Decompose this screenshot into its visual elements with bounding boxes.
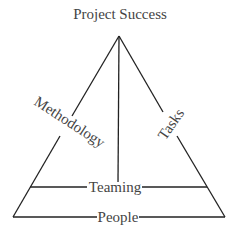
- methodology-label: Methodology: [31, 93, 108, 151]
- success-triangle-diagram: Project Success Teaming People Methodolo…: [0, 0, 239, 232]
- teaming-label: Teaming: [89, 179, 142, 195]
- tasks-label: Tasks: [155, 106, 188, 143]
- right-edge-upper: [119, 36, 163, 112]
- left-edge-lower: [13, 136, 60, 217]
- diagram-title: Project Success: [73, 6, 167, 22]
- people-label: People: [98, 209, 139, 225]
- right-edge-lower: [177, 136, 225, 217]
- center-line: [118, 36, 119, 182]
- left-edge-upper: [72, 36, 119, 116]
